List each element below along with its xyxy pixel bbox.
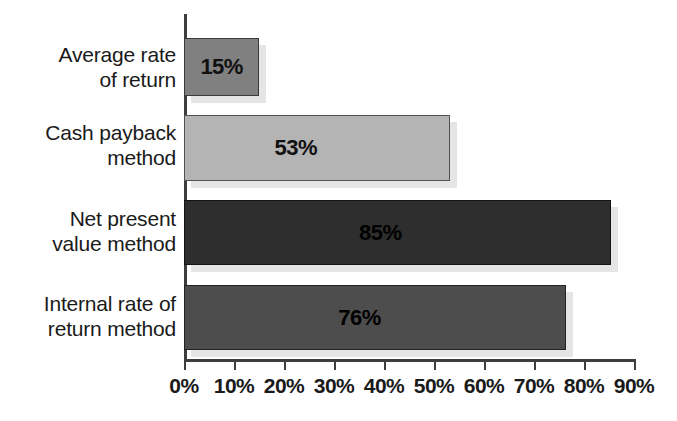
x-tick-label-30: 30%	[314, 374, 355, 398]
x-tick-label-50: 50%	[414, 374, 455, 398]
x-tick-label-20: 20%	[264, 374, 305, 398]
bar-value-cash-payback-method: 53%	[275, 135, 318, 161]
x-tick-label-10: 10%	[214, 374, 255, 398]
x-tick-50	[434, 359, 436, 370]
plot-area: 0% 10% 20% 30% 40% 50% 60% 70% 80% 90% 1…	[184, 14, 640, 359]
x-tick-label-60: 60%	[464, 374, 505, 398]
x-axis-line	[184, 359, 636, 362]
bar-value-net-present-value-method: 85%	[359, 220, 402, 246]
x-tick-label-0: 0%	[169, 374, 198, 398]
bar-value-average-rate-of-return: 15%	[200, 54, 243, 80]
x-tick-60	[484, 359, 486, 370]
x-tick-0	[184, 359, 186, 370]
x-tick-90	[634, 359, 636, 370]
x-tick-70	[534, 359, 536, 370]
category-label-cash-payback-method: Cash payback method	[0, 120, 176, 170]
category-label-average-rate-of-return: Average rate of return	[0, 42, 176, 92]
category-label-net-present-value-method: Net present value method	[0, 206, 176, 256]
bar-chart: Average rate of return Cash payback meth…	[0, 0, 677, 421]
category-label-internal-rate-of-return-method: Internal rate of return method	[0, 291, 176, 341]
bar-cash-payback-method[interactable]	[184, 115, 450, 181]
x-tick-label-70: 70%	[514, 374, 555, 398]
x-tick-10	[234, 359, 236, 370]
x-tick-label-90: 90%	[614, 374, 655, 398]
x-tick-40	[384, 359, 386, 370]
category-axis-labels: Average rate of return Cash payback meth…	[0, 0, 176, 360]
x-tick-20	[284, 359, 286, 370]
x-tick-label-80: 80%	[564, 374, 605, 398]
x-tick-80	[584, 359, 586, 370]
x-tick-30	[334, 359, 336, 370]
bar-value-internal-rate-of-return-method: 76%	[338, 305, 381, 331]
x-tick-label-40: 40%	[364, 374, 405, 398]
